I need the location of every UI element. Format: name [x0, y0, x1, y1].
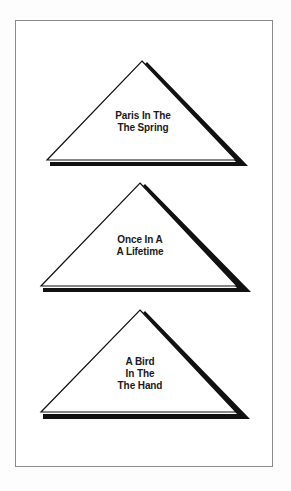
triangle-1-line-2: The Spring [83, 122, 203, 134]
triangle-2-label: Once In A A Lifetime [80, 234, 200, 258]
triangle-3-line-1: A Bird [80, 356, 200, 368]
triangle-3-line-3: The Hand [80, 380, 200, 392]
triangle-1-label: Paris In The The Spring [83, 110, 203, 134]
triangle-1-line-1: Paris In The [83, 110, 203, 122]
triangle-2-line-2: A Lifetime [80, 246, 200, 258]
triangle-3-line-2: In The [80, 368, 200, 380]
triangle-2-line-1: Once In A [80, 234, 200, 246]
triangle-3-label: A Bird In The The Hand [80, 356, 200, 392]
